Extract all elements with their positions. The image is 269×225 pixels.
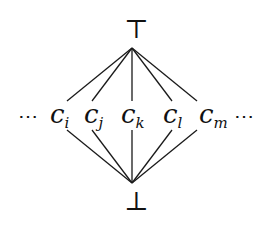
node-c-l-subscript: l [178,114,183,132]
node-c-k-subscript: k [136,114,145,132]
right-ellipsis: ⋯ [234,106,254,126]
node-c-i-subscript: i [65,114,70,132]
edge-cl-bottom [132,130,172,183]
edge-top-cj [92,48,132,101]
node-c-j-subscript: j [99,114,104,132]
node-c-j: cj [84,101,103,131]
edge-top-ci [67,48,132,101]
top-element: ⊤ [124,16,148,42]
node-c-k: ck [121,101,145,131]
node-c-m-subscript: m [214,114,228,132]
edge-top-cl [132,48,172,101]
edge-cj-bottom [92,130,132,183]
edge-cm-bottom [132,130,197,183]
bottom-element: ⊥ [124,188,148,214]
node-c-i-base: c [50,99,65,129]
left-ellipsis: ⋯ [18,106,38,126]
node-c-l-base: c [163,99,178,129]
node-c-l: cl [163,101,182,131]
node-c-i: ci [50,101,69,131]
node-c-m-base: c [199,99,214,129]
node-c-k-base: c [121,99,136,129]
edge-top-cm [132,48,197,101]
edge-ci-bottom [67,130,132,183]
lattice-diagram: ⊤ ⊥ ⋯ ⋯ ci cj ck cl cm [0,0,269,225]
node-c-m: cm [199,101,228,131]
node-c-j-base: c [84,99,99,129]
